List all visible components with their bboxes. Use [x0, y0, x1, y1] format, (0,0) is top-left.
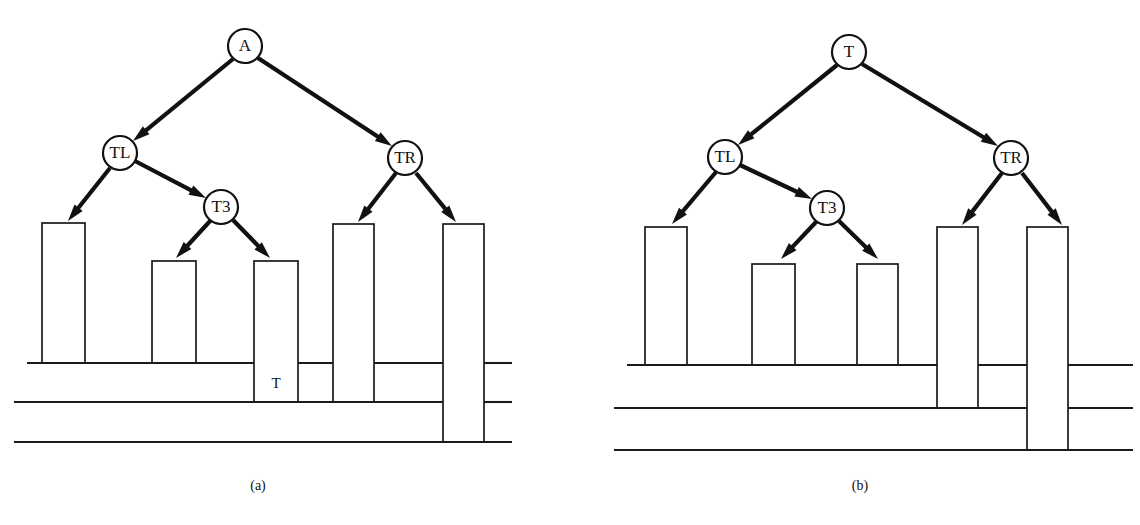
panel-a: TATLT3TR(a)	[14, 29, 512, 494]
panel-b-node-label-tl: TL	[715, 147, 736, 166]
panel-a-node-root[interactable]: A	[228, 29, 262, 63]
panel-b-node-tl[interactable]: TL	[708, 140, 742, 174]
panel-b-node-label-root: T	[844, 42, 855, 61]
panel-a-bars	[42, 223, 484, 442]
tree-edge-line-0-1	[258, 58, 380, 138]
render-layer: TATLT3TR(a)TTLT3TR(b)	[14, 29, 1133, 494]
panel-b-bar-5	[1027, 227, 1068, 450]
panel-a-bar-1	[42, 223, 85, 363]
panel-a-node-label-t3: T3	[212, 197, 231, 216]
panel-b-node-tr[interactable]: TR	[994, 141, 1028, 175]
panel-b-bars	[645, 227, 1068, 450]
diagram-canvas: TATLT3TR(a)TTLT3TR(b)	[0, 0, 1140, 525]
panel-b: TTLT3TR(b)	[614, 35, 1133, 494]
panel-b-bar-4	[937, 227, 978, 408]
panel-b-bar-2	[752, 264, 795, 365]
panel-b-caption: (b)	[852, 478, 869, 494]
panel-b-node-t3[interactable]: T3	[810, 191, 844, 225]
tree-edge-line-0-4	[185, 220, 211, 248]
tree-edge-line-1-5	[839, 221, 868, 249]
tree-edge-line-1-2	[681, 172, 716, 213]
panel-a-bar-3-label: T	[271, 375, 280, 391]
tree-edge-line-1-1	[862, 64, 986, 139]
tree-edge-line-1-0	[749, 65, 837, 136]
panel-a-node-tr[interactable]: TR	[388, 141, 422, 175]
panel-a-bar-4	[333, 224, 374, 402]
tree-edge-line-0-5	[233, 220, 260, 248]
tree-edge-line-0-3	[135, 161, 194, 192]
panel-b-node-label-t3: T3	[818, 198, 837, 217]
tree-edge-line-0-6	[367, 173, 396, 211]
tree-edge-line-0-7	[416, 173, 447, 211]
tree-edge-line-1-3	[740, 165, 799, 193]
tree-edge-line-1-4	[791, 221, 817, 249]
tree-edge-arrowhead-icon-1-3	[794, 187, 812, 199]
panel-a-node-tl[interactable]: TL	[103, 136, 137, 170]
panel-a-bar-2	[152, 261, 196, 363]
panel-a-node-label-tr: TR	[394, 148, 416, 167]
panel-a-node-label-tl: TL	[110, 143, 131, 162]
panel-b-bar-3	[857, 264, 898, 365]
panel-b-node-root[interactable]: T	[832, 35, 866, 69]
tree-edge-arrowhead-icon-0-3	[189, 186, 206, 198]
tree-edge-line-1-6	[971, 173, 1002, 214]
panel-a-node-label-root: A	[239, 36, 252, 55]
panel-a-bar-5	[443, 224, 484, 442]
panel-b-bar-1	[645, 227, 687, 365]
panel-a-node-t3[interactable]: T3	[204, 190, 238, 224]
tree-edge-line-0-0	[144, 59, 233, 132]
panel-b-node-label-tr: TR	[1000, 148, 1022, 167]
panel-a-caption: (a)	[250, 478, 266, 494]
figure-root: TATLT3TR(a)TTLT3TR(b)	[0, 0, 1140, 525]
tree-edge-line-0-2	[77, 168, 110, 210]
tree-edge-line-1-7	[1022, 173, 1053, 214]
